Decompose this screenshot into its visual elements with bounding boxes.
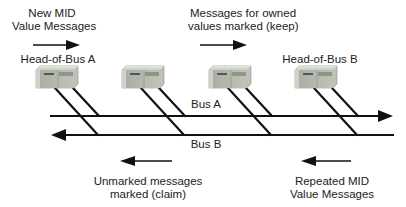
caption-owned-values-line1: Messages for owned — [188, 7, 298, 20]
caption-repeated-mid-line1: Repeated MID — [282, 175, 382, 188]
bus-b-label: Bus B — [186, 138, 226, 151]
caption-unmarked-line2: marked (claim) — [88, 188, 208, 201]
device-3-icon — [209, 66, 251, 88]
caption-unmarked: Unmarked messages marked (claim) — [88, 175, 208, 201]
bus-a-line — [50, 110, 393, 122]
caption-owned-values: Messages for owned values marked (keep) — [188, 7, 298, 33]
device-2-icon — [122, 66, 164, 88]
device-4-label: Head-of-Bus B — [280, 53, 360, 66]
bus-a-label: Bus A — [186, 98, 226, 111]
caption-owned-values-line2: values marked (keep) — [188, 20, 298, 33]
caption-unmarked-line1: Unmarked messages — [88, 175, 208, 188]
device-1-icon — [36, 66, 78, 88]
arrow-owned-values-right — [200, 40, 247, 50]
device-1-label: Head-of-Bus A — [18, 53, 98, 66]
arrow-unmarked-left — [120, 156, 172, 166]
drop-lines — [55, 88, 358, 135]
caption-new-mid-line1: New MID — [12, 7, 92, 20]
device-4-icon — [295, 66, 337, 88]
caption-new-mid-line2: Value Messages — [12, 20, 92, 33]
arrow-new-mid-right — [33, 40, 80, 50]
redundant-bus-diagram: New MID Value Messages Messages for owne… — [0, 0, 406, 207]
caption-new-mid: New MID Value Messages — [12, 7, 92, 33]
caption-repeated-mid-line2: Value Messages — [282, 188, 382, 201]
arrow-repeated-mid-left — [301, 156, 351, 166]
caption-repeated-mid: Repeated MID Value Messages — [282, 175, 382, 201]
